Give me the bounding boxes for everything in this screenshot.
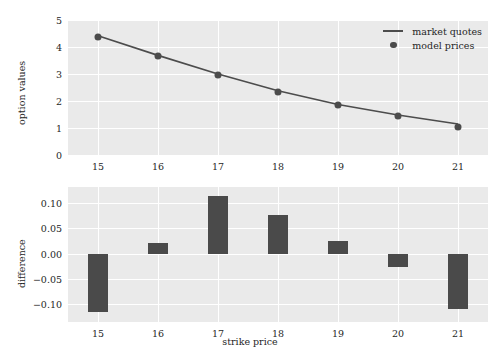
y-tick-label: 5	[56, 15, 62, 26]
x-tick-label: 21	[452, 328, 464, 339]
bar	[268, 215, 288, 254]
x-tick-label: 16	[152, 328, 164, 339]
data-point-marker	[95, 34, 102, 41]
x-tick-label: 20	[392, 328, 404, 339]
y-tick-label: 0	[56, 150, 62, 161]
data-point-marker	[335, 102, 342, 109]
y-tick-label: −0.05	[33, 274, 62, 285]
y-tick-label: −0.10	[33, 299, 62, 310]
x-tick-label: 19	[332, 328, 344, 339]
legend-label-market-quotes: market quotes	[412, 26, 482, 37]
option-values-y-axis-title: option values	[16, 61, 27, 125]
legend: market quotes model prices	[380, 24, 482, 52]
y-tick-label: 0.05	[41, 223, 62, 234]
bar	[148, 243, 168, 254]
data-point-marker	[155, 53, 162, 60]
data-point-marker	[455, 123, 462, 130]
y-tick-label: 2	[56, 96, 62, 107]
bar	[448, 254, 468, 310]
x-tick-label: 17	[212, 161, 224, 172]
x-tick-label: 15	[92, 161, 104, 172]
figure: market quotes model prices 012345 151617…	[0, 0, 500, 354]
x-tick-label: 16	[152, 161, 164, 172]
option-values-plot-area: market quotes model prices	[68, 20, 488, 155]
y-tick-label: 1	[56, 123, 62, 134]
x-tick-label: 20	[392, 161, 404, 172]
difference-y-axis-title: difference	[16, 239, 27, 288]
x-tick-label: 18	[272, 161, 284, 172]
data-point-marker	[395, 112, 402, 119]
dot-swatch-icon	[380, 42, 406, 49]
data-point-marker	[215, 72, 222, 79]
y-tick-label: 3	[56, 69, 62, 80]
y-tick-label: 0.10	[41, 198, 62, 209]
difference-x-axis-title: strike price	[222, 336, 277, 347]
x-tick-label: 21	[452, 161, 464, 172]
y-tick-label: 4	[56, 42, 62, 53]
x-tick-label: 15	[92, 328, 104, 339]
legend-item-market-quotes: market quotes	[380, 24, 482, 38]
y-tick-label: 0.00	[41, 248, 62, 259]
legend-label-model-prices: model prices	[412, 40, 474, 51]
data-point-marker	[275, 88, 282, 95]
gridline-vertical	[278, 187, 279, 322]
x-tick-label: 19	[332, 161, 344, 172]
legend-item-model-prices: model prices	[380, 38, 482, 52]
bar	[388, 254, 408, 268]
bar	[88, 254, 108, 312]
gridline-horizontal	[68, 155, 488, 156]
difference-plot-area	[68, 187, 488, 322]
gridline-vertical	[158, 187, 159, 322]
line-swatch-icon	[380, 30, 406, 32]
bar	[328, 241, 348, 254]
bar	[208, 196, 228, 254]
gridline-vertical	[338, 187, 339, 322]
